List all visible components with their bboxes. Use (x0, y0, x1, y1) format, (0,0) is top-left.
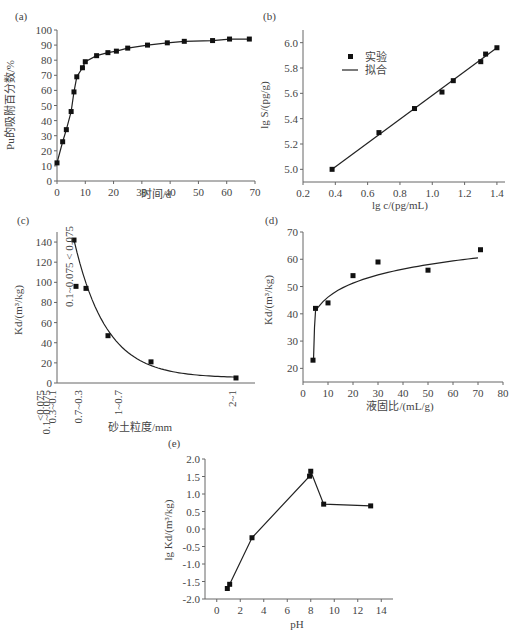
y-tick-label: -0.5 (183, 541, 201, 553)
x-tick-label: 40 (398, 387, 410, 399)
x-tick-label: 14 (376, 604, 388, 616)
x-tick-label: 0 (300, 387, 306, 399)
y-tick-label: 140 (36, 236, 53, 248)
data-point (313, 306, 318, 311)
y-tick-label: 70 (41, 69, 53, 81)
x-tick-label: 10 (329, 604, 341, 616)
x-tick-label: 12 (352, 604, 363, 616)
x-tick-label: 30 (373, 387, 385, 399)
data-point (125, 46, 130, 51)
panel-label: (e) (168, 437, 181, 450)
data-point (83, 59, 88, 64)
y-tick-label: 60 (41, 84, 53, 96)
x-tick-label: 0.6 (361, 187, 375, 199)
series-line (227, 471, 370, 588)
data-point (311, 358, 316, 363)
chart-panel-d: (d)20304050607001020304050607080液固比/(mL/… (262, 214, 509, 413)
data-point (483, 52, 488, 57)
data-point (227, 37, 232, 42)
annotation: 0.1~0.075 < 0.075 (63, 226, 75, 307)
y-tick-label: 100 (36, 24, 53, 36)
y-tick-label: 5.4 (284, 113, 298, 125)
x-tick-label: 60 (221, 186, 233, 198)
y-tick-label: 50 (287, 281, 299, 293)
legend-label-fit: 拟合 (365, 63, 387, 76)
y-tick-label: 40 (287, 308, 299, 320)
x-category-label: 0.7~0.3 (72, 390, 84, 424)
x-tick-label: 20 (108, 186, 120, 198)
y-tick-label: 5.8 (284, 62, 298, 74)
y-tick-label: -2.0 (183, 593, 201, 605)
x-tick-label: 1.2 (458, 187, 472, 199)
y-tick-label: 30 (287, 335, 299, 347)
x-tick-label: 1.0 (425, 187, 439, 199)
legend-marker (348, 54, 353, 59)
chart-panel-c: (c)020406080100120140砂土粒度/mmKd/(m³/kg)<0… (12, 214, 255, 434)
data-point (478, 59, 483, 64)
y-tick-label: 0.0 (186, 523, 200, 535)
panel-label: (a) (15, 10, 28, 23)
x-tick-label: 50 (423, 387, 435, 399)
y-axis-label: Kd/(m³/kg) (12, 285, 25, 335)
data-point (250, 535, 255, 540)
y-tick-label: 20 (41, 357, 53, 369)
x-tick-label: 0.8 (393, 187, 407, 199)
y-tick-label: 0.5 (186, 506, 200, 518)
x-tick-label: 10 (80, 186, 92, 198)
data-point (114, 49, 119, 54)
y-tick-label: 0 (47, 377, 53, 389)
data-point (376, 260, 381, 265)
y-tick-label: 30 (41, 130, 53, 142)
x-tick-label: 0 (214, 604, 220, 616)
y-tick-label: 80 (41, 296, 53, 308)
x-tick-label: 8 (308, 604, 314, 616)
y-tick-label: 20 (41, 145, 53, 157)
series-line (57, 39, 249, 163)
y-tick-label: -1.5 (183, 576, 201, 588)
data-point (105, 50, 110, 55)
x-axis-label: lg c/(pg/mL) (372, 199, 428, 212)
x-tick-label: 0.4 (328, 187, 342, 199)
y-tick-label: 60 (41, 317, 53, 329)
y-tick-label: 2.0 (186, 453, 200, 465)
data-point (94, 53, 99, 58)
data-point (412, 106, 417, 111)
y-tick-label: 0 (47, 175, 53, 187)
x-tick-label: 4 (261, 604, 267, 616)
data-point (478, 247, 483, 252)
y-tick-label: 80 (41, 54, 53, 66)
x-tick-label: 6 (285, 604, 291, 616)
x-axis-label: pH (290, 618, 304, 630)
chart-panel-a: (a)0102030405060708090100010203040506070… (3, 10, 261, 200)
data-point (439, 90, 444, 95)
y-axis-label: Pu的吸附百分数/% (3, 60, 16, 150)
x-category-label: 2~1 (226, 390, 238, 407)
x-tick-label: 2 (238, 604, 244, 616)
data-point (308, 469, 313, 474)
x-tick-label: 80 (498, 387, 510, 399)
data-point (234, 375, 239, 380)
x-tick-label: 60 (448, 387, 460, 399)
y-tick-label: 5.6 (284, 87, 298, 99)
data-point (326, 300, 331, 305)
data-point (307, 474, 312, 479)
figure-canvas: (a)0102030405060708090100010203040506070… (0, 0, 520, 639)
data-point (80, 65, 85, 70)
chart-panel-b: (b)5.05.25.45.65.86.00.20.40.60.81.01.21… (258, 10, 505, 212)
data-point (227, 582, 232, 587)
y-tick-label: 70 (287, 226, 299, 238)
series-line (314, 258, 479, 360)
y-tick-label: 10 (41, 160, 53, 172)
data-point (84, 286, 89, 291)
data-point (247, 37, 252, 42)
series-line (74, 240, 236, 377)
data-point (165, 40, 170, 45)
legend-label-experiment: 实验 (365, 50, 387, 63)
y-tick-label: 120 (36, 256, 53, 268)
y-tick-label: 90 (41, 39, 53, 51)
x-tick-label: 10 (323, 387, 335, 399)
data-point (74, 74, 79, 79)
data-point (149, 359, 154, 364)
x-tick-label: 20 (348, 387, 360, 399)
data-point (321, 502, 326, 507)
